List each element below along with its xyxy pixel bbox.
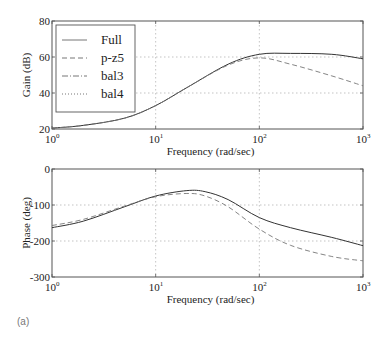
x-axis-label: Frequency (rad/sec) xyxy=(167,293,255,306)
x-tick-label: 103 xyxy=(356,132,371,145)
legend-label: bal3 xyxy=(101,68,123,83)
y-tick-label: -100 xyxy=(30,199,51,211)
y-tick-label: 20 xyxy=(39,123,51,135)
y-axis-label: Phase (deg) xyxy=(20,197,33,249)
series-p-z5 xyxy=(52,193,363,260)
series-full xyxy=(52,190,363,245)
y-tick-label: -300 xyxy=(30,271,51,283)
x-tick-label: 102 xyxy=(252,132,267,145)
legend-label: p-z5 xyxy=(101,50,124,65)
gain-plot: 10010110210320406080Frequency (rad/sec)G… xyxy=(20,15,371,158)
x-axis-label: Frequency (rad/sec) xyxy=(167,145,255,158)
y-axis-label: Gain (dB) xyxy=(20,53,33,98)
y-tick-label: 80 xyxy=(39,15,51,27)
y-tick-label: 60 xyxy=(39,51,51,63)
phase-plot: 100101102103-300-200-1000Frequency (rad/… xyxy=(20,163,371,306)
legend: Fullp-z5bal3bal4 xyxy=(56,25,135,112)
y-tick-label: 0 xyxy=(45,163,51,175)
legend-label: Full xyxy=(101,32,122,47)
bode-figure: 10010110210320406080Frequency (rad/sec)G… xyxy=(0,0,391,339)
y-tick-label: 40 xyxy=(39,87,51,99)
x-tick-label: 101 xyxy=(149,132,164,145)
x-tick-label: 101 xyxy=(149,280,164,293)
legend-label: bal4 xyxy=(101,86,124,101)
x-tick-label: 102 xyxy=(252,280,267,293)
y-tick-label: -200 xyxy=(30,235,51,247)
panel-label: (a) xyxy=(17,316,29,327)
x-tick-label: 103 xyxy=(356,280,371,293)
plot-frame xyxy=(52,169,363,277)
